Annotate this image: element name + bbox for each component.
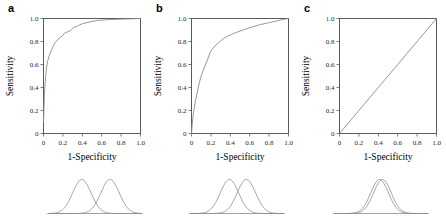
y-tick-label: 0 — [35, 130, 39, 138]
distribution-curve-c-2 — [334, 180, 428, 214]
panel-c: c 00.20.40.60.81.0 00.20.40.60.81.0 Sens… — [296, 0, 444, 219]
distribution-curve-c-1 — [334, 180, 428, 214]
y-axis-labels-a: 00.20.40.60.81.0 — [30, 15, 39, 138]
distribution-plot-a — [0, 168, 148, 219]
x-tick-label: 1.0 — [284, 139, 293, 147]
roc-figure: a 00.20.40.60.81.0 00.20.40.60.81.0 Sens… — [0, 0, 446, 219]
x-tick-label: 1.0 — [136, 139, 145, 147]
distribution-curve-b-1 — [190, 180, 284, 214]
distribution-plot-b — [148, 168, 296, 219]
x-tick-label: 0 — [42, 139, 46, 147]
roc-curve-c — [340, 19, 437, 134]
y-tick-label: 0.8 — [178, 38, 187, 46]
x-tick-label: 0.6 — [393, 139, 402, 147]
x-axis-labels-c: 00.20.40.60.81.0 — [338, 139, 442, 147]
x-tick-label: 1.0 — [432, 139, 441, 147]
distribution-svg-c — [296, 168, 444, 219]
plot-frame-b — [192, 19, 289, 134]
x-tick-label: 0.6 — [245, 139, 254, 147]
y-tick-label: 0.4 — [178, 84, 187, 92]
roc-plot-a: 00.20.40.60.81.0 00.20.40.60.81.0 Sensit… — [0, 14, 148, 164]
y-axis-labels-c: 00.20.40.60.81.0 — [326, 15, 335, 138]
y-tick-label: 0.8 — [30, 38, 39, 46]
distribution-svg-a — [0, 168, 148, 219]
roc-svg-a: 00.20.40.60.81.0 00.20.40.60.81.0 Sensit… — [0, 14, 148, 164]
x-axis-title-c: 1-Specificity — [363, 152, 412, 162]
x-tick-label: 0 — [190, 139, 194, 147]
y-tick-label: 0.2 — [178, 107, 187, 115]
y-tick-label: 0.6 — [178, 61, 187, 69]
x-tick-label: 0.8 — [265, 139, 274, 147]
distribution-curve-b-2 — [190, 180, 284, 214]
roc-curve-b — [192, 19, 289, 134]
x-tick-label: 0.8 — [413, 139, 422, 147]
x-axis-labels-a: 00.20.40.60.81.0 — [42, 139, 146, 147]
distribution-plot-c — [296, 168, 444, 219]
x-tick-label: 0.2 — [59, 139, 68, 147]
panel-letter-c: c — [304, 3, 310, 14]
distribution-svg-b — [148, 168, 296, 219]
x-tick-label: 0.8 — [117, 139, 126, 147]
panel-letter-b: b — [156, 3, 163, 14]
roc-plot-c: 00.20.40.60.81.0 00.20.40.60.81.0 Sensit… — [296, 14, 444, 164]
y-axis-title-a: Sensitivity — [5, 55, 15, 96]
panel-a: a 00.20.40.60.81.0 00.20.40.60.81.0 Sens… — [0, 0, 148, 219]
y-tick-label: 0.6 — [30, 61, 39, 69]
panel-b: b 00.20.40.60.81.0 00.20.40.60.81.0 Sens… — [148, 0, 296, 219]
y-tick-label: 0.2 — [326, 107, 335, 115]
x-tick-label: 0 — [338, 139, 342, 147]
y-axis-title-b: Sensitivity — [153, 55, 163, 96]
y-tick-label: 1.0 — [326, 15, 335, 23]
x-axis-title-b: 1-Specificity — [215, 152, 264, 162]
y-tick-label: 0.4 — [30, 84, 39, 92]
y-tick-label: 0 — [183, 130, 187, 138]
roc-svg-b: 00.20.40.60.81.0 00.20.40.60.81.0 Sensit… — [148, 14, 296, 164]
roc-plot-b: 00.20.40.60.81.0 00.20.40.60.81.0 Sensit… — [148, 14, 296, 164]
y-tick-label: 0.6 — [326, 61, 335, 69]
roc-svg-c: 00.20.40.60.81.0 00.20.40.60.81.0 Sensit… — [296, 14, 444, 164]
roc-curve-a — [44, 19, 141, 123]
y-tick-label: 0.4 — [326, 84, 335, 92]
y-tick-label: 1.0 — [178, 15, 187, 23]
y-axis-title-c: Sensitivity — [301, 55, 311, 96]
x-tick-label: 0.4 — [78, 139, 87, 147]
x-tick-label: 0.4 — [226, 139, 235, 147]
panel-letter-a: a — [8, 3, 14, 14]
plot-frame-a — [44, 19, 141, 134]
x-tick-label: 0.2 — [207, 139, 216, 147]
distribution-curve-a-2 — [48, 180, 142, 214]
y-tick-label: 0.8 — [326, 38, 335, 46]
y-axis-labels-b: 00.20.40.60.81.0 — [178, 15, 187, 138]
y-tick-label: 0 — [331, 130, 335, 138]
x-tick-label: 0.6 — [97, 139, 106, 147]
y-tick-label: 1.0 — [30, 15, 39, 23]
x-axis-title-a: 1-Specificity — [67, 152, 116, 162]
y-tick-label: 0.2 — [30, 107, 39, 115]
x-tick-label: 0.4 — [374, 139, 383, 147]
x-tick-label: 0.2 — [355, 139, 364, 147]
x-axis-labels-b: 00.20.40.60.81.0 — [190, 139, 294, 147]
